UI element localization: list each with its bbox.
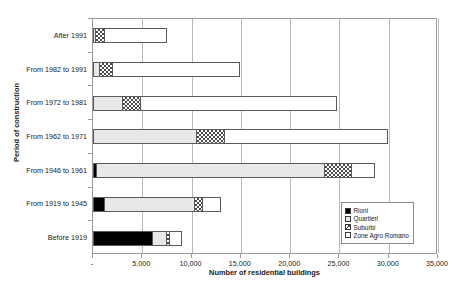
legend-label: Zone Agro Romano — [354, 232, 409, 239]
x-axis-tick — [338, 254, 339, 258]
bar-row — [93, 19, 167, 53]
legend-label: Rioni — [354, 207, 369, 214]
bar-segment-zone[interactable] — [113, 63, 238, 76]
stacked-bar[interactable] — [93, 62, 240, 77]
bar-row — [93, 120, 388, 154]
bar-row — [93, 188, 221, 222]
x-axis-tick-label: 15,000 — [229, 259, 251, 268]
stacked-bar[interactable] — [93, 197, 221, 212]
stacked-bar[interactable] — [93, 163, 375, 178]
stacked-bar[interactable] — [93, 28, 167, 43]
bar-segment-suburbi[interactable] — [195, 198, 203, 211]
gridline — [438, 19, 439, 253]
bar-segment-zone[interactable] — [170, 232, 181, 245]
legend-swatch-icon — [345, 224, 351, 230]
legend-swatch-icon — [345, 216, 351, 222]
bar-segment-suburbi[interactable] — [197, 130, 225, 143]
bar-segment-suburbi[interactable] — [325, 164, 352, 177]
bar-segment-rioni[interactable] — [94, 198, 105, 211]
bar-row — [93, 221, 182, 255]
bar-segment-zone[interactable] — [141, 97, 337, 110]
x-axis-tick-label: 35,000 — [426, 259, 448, 268]
y-axis-tick-label: From 1946 to 1961 — [0, 165, 87, 174]
chart-legend: RioniQuartieriSuburbiZone Agro Romano — [341, 202, 414, 244]
x-axis-tick-label: 20,000 — [278, 259, 300, 268]
y-axis-tick-label: After 1991 — [0, 30, 87, 39]
legend-swatch-icon — [345, 232, 351, 238]
x-axis-tick — [240, 254, 241, 258]
x-axis-tick — [141, 254, 142, 258]
bar-segment-quartieri[interactable] — [94, 130, 197, 143]
bar-segment-quartieri[interactable] — [153, 232, 167, 245]
bar-row — [93, 53, 240, 87]
x-axis: -5,00010,00015,00020,00025,00030,00035,0… — [92, 254, 437, 268]
x-axis-tick-label: 25,000 — [327, 259, 349, 268]
bar-segment-suburbi[interactable] — [96, 29, 105, 42]
x-axis-tick-label: 30,000 — [377, 259, 399, 268]
bar-segment-rioni[interactable] — [94, 232, 153, 245]
legend-item-rioni[interactable]: Rioni — [345, 207, 409, 214]
legend-item-zone[interactable]: Zone Agro Romano — [345, 232, 409, 239]
legend-item-quartieri[interactable]: Quartieri — [345, 215, 409, 222]
bar-chart: Period of construction After 1991From 19… — [0, 0, 459, 287]
bar-row — [93, 86, 337, 120]
bar-segment-zone[interactable] — [105, 29, 166, 42]
y-axis-tick-label: From 1972 to 1981 — [0, 98, 87, 107]
x-axis-tick — [92, 254, 93, 258]
legend-item-suburbi[interactable]: Suburbi — [345, 224, 409, 231]
x-axis-tick — [437, 254, 438, 258]
y-axis-labels: After 1991From 1982 to 1991From 1972 to … — [0, 18, 92, 254]
x-axis-tick-label: - — [91, 259, 93, 268]
bar-segment-suburbi[interactable] — [123, 97, 141, 110]
x-axis-title: Number of residential buildings — [92, 268, 437, 277]
y-axis-tick-label: Before 1919 — [0, 233, 87, 242]
legend-swatch-icon — [345, 208, 351, 214]
y-axis-tick-label: From 1962 to 1971 — [0, 132, 87, 141]
x-axis-tick-label: 10,000 — [180, 259, 202, 268]
y-axis-tick-label: From 1919 to 1945 — [0, 199, 87, 208]
stacked-bar[interactable] — [93, 129, 388, 144]
bar-segment-quartieri[interactable] — [94, 97, 123, 110]
x-axis-tick-label: 5,000 — [132, 259, 150, 268]
stacked-bar[interactable] — [93, 96, 337, 111]
x-axis-tick — [191, 254, 192, 258]
stacked-bar[interactable] — [93, 231, 182, 246]
legend-label: Quartieri — [354, 215, 379, 222]
legend-label: Suburbi — [354, 224, 376, 231]
bar-segment-suburbi[interactable] — [100, 63, 114, 76]
x-axis-tick — [289, 254, 290, 258]
bar-segment-zone[interactable] — [352, 164, 374, 177]
bar-row — [93, 154, 375, 188]
bar-segment-quartieri[interactable] — [97, 164, 325, 177]
bar-segment-zone[interactable] — [225, 130, 387, 143]
bar-segment-zone[interactable] — [203, 198, 220, 211]
bar-segment-quartieri[interactable] — [105, 198, 195, 211]
y-axis-tick-label: From 1982 to 1991 — [0, 64, 87, 73]
x-axis-tick — [388, 254, 389, 258]
